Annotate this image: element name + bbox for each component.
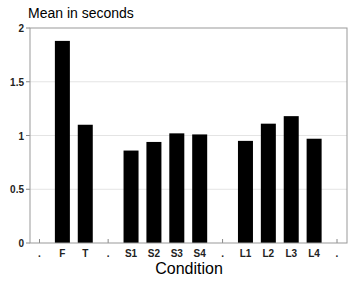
y-tick-label: 0.5 xyxy=(10,184,24,195)
bar xyxy=(192,134,207,243)
x-tick-label: . xyxy=(107,248,110,259)
bar xyxy=(307,139,322,243)
x-tick-label: S4 xyxy=(194,248,207,259)
x-tick-label: F xyxy=(59,248,65,259)
x-tick-label: L3 xyxy=(285,248,297,259)
bar xyxy=(78,125,93,243)
y-tick-label: 1 xyxy=(18,131,24,142)
x-tick-label: . xyxy=(336,248,339,259)
x-tick-label: L2 xyxy=(263,248,275,259)
bar xyxy=(55,41,70,243)
bar-chart: 00.511.52.FT.S1S2S3S4.L1L2L3L4. xyxy=(0,0,360,286)
bar xyxy=(238,141,253,243)
x-tick-label: S2 xyxy=(148,248,161,259)
x-tick-label: L4 xyxy=(308,248,320,259)
bar xyxy=(146,142,161,243)
y-tick-label: 0 xyxy=(18,238,24,249)
y-tick-label: 2 xyxy=(18,23,24,34)
bar xyxy=(124,151,139,243)
x-tick-label: . xyxy=(221,248,224,259)
x-tick-label: T xyxy=(82,248,88,259)
bar xyxy=(261,124,276,243)
x-axis-label: Condition xyxy=(0,260,360,278)
x-tick-label: L1 xyxy=(240,248,252,259)
bar xyxy=(169,133,184,243)
y-tick-label: 1.5 xyxy=(10,77,24,88)
x-tick-label: . xyxy=(38,248,41,259)
x-tick-label: S3 xyxy=(171,248,184,259)
bar xyxy=(284,116,299,243)
x-tick-label: S1 xyxy=(125,248,138,259)
